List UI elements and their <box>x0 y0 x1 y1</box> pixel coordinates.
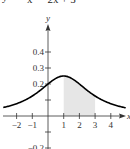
svg-text:−2: −2 <box>12 120 22 130</box>
svg-text:0.2: 0.2 <box>33 79 44 89</box>
svg-text:0.4: 0.4 <box>33 47 45 57</box>
svg-text:2: 2 <box>77 120 82 130</box>
svg-text:0.3: 0.3 <box>33 63 45 73</box>
svg-text:x: x <box>126 111 130 121</box>
svg-text:−1: −1 <box>28 120 38 130</box>
function-plot: −2−112340.40.30.2−0.2xy <box>0 0 130 149</box>
svg-text:−0.2: −0.2 <box>28 143 44 149</box>
svg-text:1: 1 <box>61 120 66 130</box>
svg-text:3: 3 <box>93 120 98 130</box>
shaded-area <box>64 76 95 116</box>
svg-text:y: y <box>45 13 50 23</box>
svg-text:4: 4 <box>109 120 114 130</box>
